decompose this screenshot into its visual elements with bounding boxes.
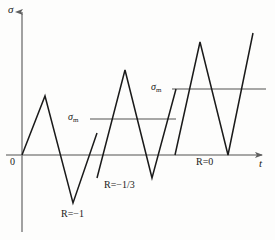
stress-cycle-figure: σ t 0 σm σm R=−1 R=−1/3 R=0 <box>0 0 275 240</box>
plot-canvas <box>0 0 275 240</box>
waveform-r-minus-one-third <box>97 70 176 178</box>
ratio-label-full-reversed: R=−1 <box>61 209 84 219</box>
axis-group <box>6 12 262 232</box>
sigma-m-subscript: m <box>73 116 78 124</box>
ratio-label-partial: R=−1/3 <box>104 180 135 190</box>
sigma-m-subscript: m <box>156 86 161 94</box>
sigma-m-label-right: σm <box>151 82 161 94</box>
y-axis-label: σ <box>8 4 13 15</box>
sigma-m-label-middle: σm <box>68 112 78 124</box>
waveform-r-zero <box>175 33 253 155</box>
origin-label: 0 <box>10 157 15 167</box>
ratio-label-zero: R=0 <box>196 157 213 167</box>
x-axis-label: t <box>259 158 262 169</box>
waveform-r-minus-1 <box>22 96 97 203</box>
